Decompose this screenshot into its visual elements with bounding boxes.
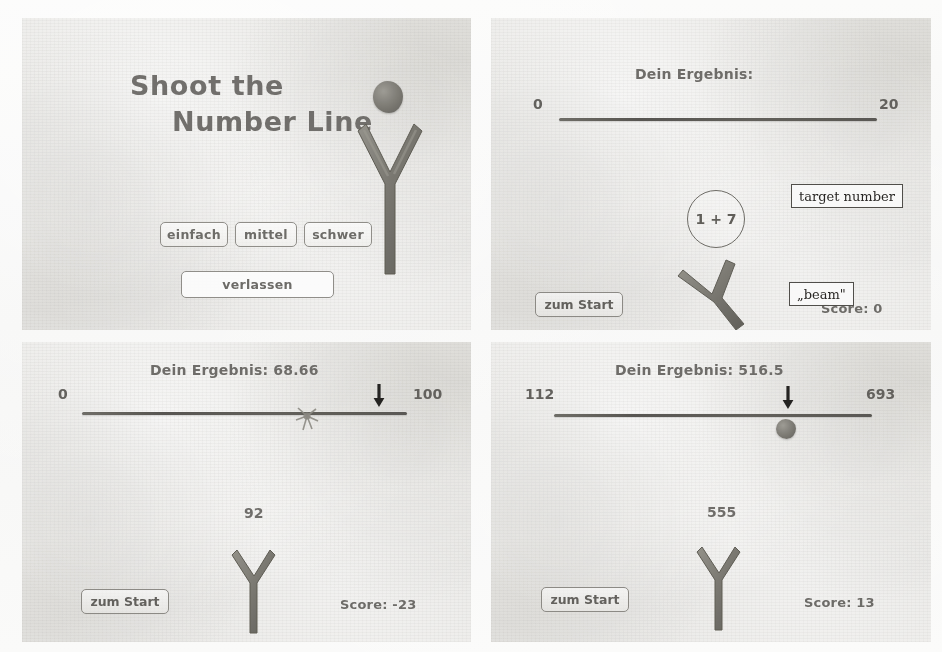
- difficulty-medium-button[interactable]: mittel: [235, 222, 297, 247]
- target-number-value: 92: [244, 505, 263, 521]
- number-line-max-label: 20: [879, 96, 898, 112]
- down-arrow-marker-icon: [781, 386, 795, 410]
- down-arrow-marker-icon: [372, 384, 386, 408]
- game-title-line2: Number Line: [172, 106, 373, 137]
- panel-result-easy: Dein Ergebnis: 68.66 0 100: [22, 342, 471, 642]
- number-line-min-label: 112: [525, 386, 554, 402]
- quit-button[interactable]: verlassen: [181, 271, 334, 298]
- number-line: [559, 118, 877, 121]
- number-line-min-label: 0: [533, 96, 543, 112]
- number-line-max-label: 100: [413, 386, 442, 402]
- result-label: Dein Ergebnis:: [635, 66, 753, 82]
- difficulty-hard-button[interactable]: schwer: [304, 222, 372, 247]
- slingshot-icon: [689, 544, 749, 634]
- target-number-value: 555: [707, 504, 736, 520]
- zum-start-button[interactable]: zum Start: [535, 292, 623, 317]
- number-line-max-label: 693: [866, 386, 895, 402]
- annotation-target-number: target number: [791, 184, 903, 208]
- stone-icon: [776, 419, 796, 439]
- stone-icon: [373, 81, 403, 113]
- score-label: Score: 13: [804, 595, 875, 610]
- panel-result-hard: Dein Ergebnis: 516.5 112 693 555: [491, 342, 931, 642]
- slingshot-icon: [224, 547, 284, 637]
- game-title-line1: Shoot the: [130, 70, 284, 101]
- result-label: Dein Ergebnis: 516.5: [615, 362, 784, 378]
- scanned-page: Shoot the Number Line einfach: [0, 0, 942, 652]
- panel-aiming-screen: Dein Ergebnis: 0 20 1 + 7: [491, 18, 931, 330]
- score-label: Score: -23: [340, 597, 416, 612]
- difficulty-easy-button[interactable]: einfach: [160, 222, 228, 247]
- target-number-bubble: 1 + 7: [687, 190, 745, 248]
- number-line-min-label: 0: [58, 386, 68, 402]
- result-label: Dein Ergebnis: 68.66: [150, 362, 319, 378]
- annotation-beam: „beam": [789, 282, 854, 306]
- number-line: [82, 412, 407, 415]
- zum-start-button[interactable]: zum Start: [81, 589, 169, 614]
- number-line: [554, 414, 872, 417]
- target-number-value: 1 + 7: [696, 211, 737, 227]
- beam-line: [491, 18, 791, 168]
- annotation-leaders: [491, 18, 791, 168]
- slingshot-icon: [673, 254, 783, 330]
- impact-splash-icon: [290, 400, 324, 434]
- zum-start-button[interactable]: zum Start: [541, 587, 629, 612]
- slingshot-icon: [344, 114, 434, 284]
- panel-start-screen: Shoot the Number Line einfach: [22, 18, 471, 330]
